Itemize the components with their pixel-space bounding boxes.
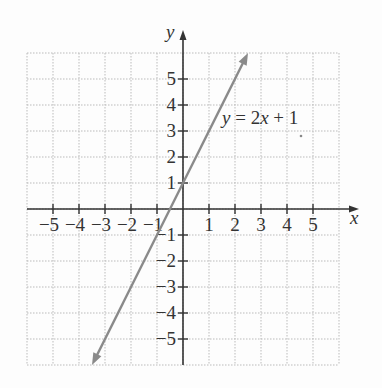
y-tick-label: −3: [156, 276, 176, 297]
y-tick-label: −2: [156, 250, 176, 271]
line-arrow-up-icon: [239, 53, 248, 66]
x-tick-label: 4: [282, 214, 292, 235]
x-tick-label: 2: [230, 214, 240, 235]
y-tick-label: 2: [167, 146, 177, 167]
y-tick-label: −5: [156, 328, 176, 349]
y-tick-label: −1: [156, 224, 176, 245]
y-tick-label: 1: [167, 172, 177, 193]
y-tick-label: 5: [167, 68, 177, 89]
y-tick-label: 4: [167, 94, 177, 115]
speck-dot: [300, 135, 303, 138]
x-tick-label: 3: [256, 214, 266, 235]
coordinate-plane: −5−4−3−2−112345−5−4−3−2−112345xyy = 2x +…: [0, 0, 382, 388]
line-arrow-down-icon: [92, 352, 101, 365]
x-tick-label: −4: [65, 214, 86, 235]
x-tick-label: 5: [308, 214, 318, 235]
x-tick-label: −5: [39, 214, 59, 235]
y-tick-label: −4: [156, 302, 177, 323]
y-axis-arrow-icon: [180, 30, 187, 40]
graph-figure: −5−4−3−2−112345−5−4−3−2−112345xyy = 2x +…: [0, 0, 382, 388]
y-tick-label: 3: [167, 120, 177, 141]
x-tick-label: −3: [91, 214, 111, 235]
y-axis-label: y: [164, 21, 175, 42]
x-axis-label: x: [349, 207, 359, 228]
x-tick-label: −2: [117, 214, 137, 235]
equation-label: y = 2x + 1: [220, 107, 298, 128]
x-tick-label: 1: [204, 214, 214, 235]
